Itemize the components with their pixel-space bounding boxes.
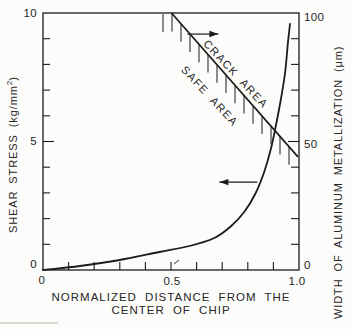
y-right-axis-title: WIDTH OF ALUMINUM METALLIZATION (μm) bbox=[332, 46, 344, 319]
x-tick-05: 0.5 bbox=[155, 275, 189, 287]
x-axis-title-line2: CENTER OF CHIP bbox=[0, 304, 342, 317]
y-right-tick-100: 100 bbox=[304, 11, 338, 23]
x-tick-10: 1.0 bbox=[280, 275, 314, 287]
left-axis-indicator-arrow-head bbox=[219, 179, 228, 185]
x-axis-title-line1: NORMALIZED DISTANCE FROM THE bbox=[0, 291, 342, 304]
y-left-tick-10: 10 bbox=[11, 7, 37, 19]
scan-mark bbox=[174, 260, 179, 264]
plot-frame bbox=[43, 13, 299, 270]
shear-stress-curve bbox=[43, 24, 290, 270]
x-tick-0: 0 bbox=[25, 274, 59, 286]
y-left-tick-0: 0 bbox=[11, 258, 37, 270]
x-axis-title: NORMALIZED DISTANCE FROM THE CENTER OF C… bbox=[0, 291, 342, 317]
right-axis-indicator-arrow-head bbox=[209, 31, 218, 37]
y-left-axis-title: SHEAR STRESS (kg/mm2) bbox=[5, 76, 19, 233]
scan-artifact bbox=[0, 322, 58, 324]
figure-shear-stress-chart: 10 5 0 100 50 0 0 0.5 1.0 SHEAR STRESS (… bbox=[0, 0, 352, 329]
